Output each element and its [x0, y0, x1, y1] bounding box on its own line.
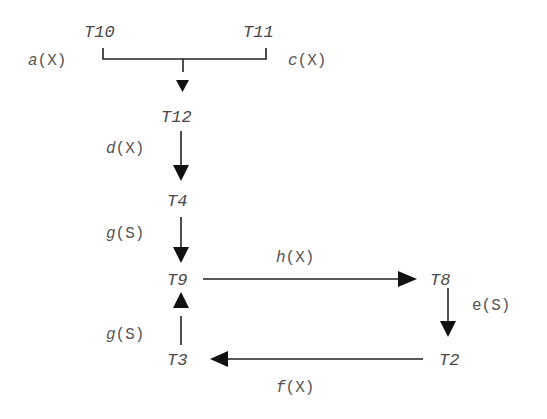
edge-t10-t11-to-t12: [103, 48, 266, 92]
node-t2: T2: [439, 351, 459, 370]
edge-label-a: a(X): [28, 52, 66, 70]
node-t10: T10: [84, 23, 115, 42]
precedence-graph: T10 T11 T12 T4 T9 T8 T2 T3 a(X) c: [0, 0, 547, 419]
edge-label-g-lower: g(S): [106, 326, 144, 344]
node-t12: T12: [161, 108, 192, 127]
edge-t9-to-t8: [203, 271, 417, 287]
edge-label-f: f(X): [276, 379, 314, 397]
node-t3: T3: [167, 351, 187, 370]
edge-label-e: e(S): [472, 297, 510, 315]
arrowhead-right-icon: [398, 271, 417, 287]
edge-label-d: d(X): [106, 140, 144, 158]
arrowhead-up-icon: [173, 292, 189, 308]
arrowhead-down-icon: [173, 247, 189, 263]
edge-t4-to-t9: [173, 217, 189, 263]
node-t8: T8: [430, 271, 450, 290]
edge-label-g-upper: g(S): [106, 225, 144, 243]
node-t11: T11: [243, 23, 274, 42]
node-t9: T9: [167, 271, 187, 290]
arrowhead-left-icon: [210, 351, 228, 367]
arrowhead-down-icon: [176, 80, 189, 92]
edge-t8-to-t2: [440, 288, 456, 337]
edge-label-c: c(X): [288, 52, 326, 70]
arrowhead-down-icon: [173, 165, 189, 181]
arrowhead-down-icon: [440, 321, 456, 337]
edge-label-h: h(X): [276, 249, 314, 267]
edge-t3-to-t9: [173, 292, 189, 345]
join-bracket: [103, 48, 266, 59]
edge-t2-to-t3: [210, 351, 423, 367]
node-t4: T4: [167, 192, 187, 211]
edge-t12-to-t4: [173, 131, 189, 181]
